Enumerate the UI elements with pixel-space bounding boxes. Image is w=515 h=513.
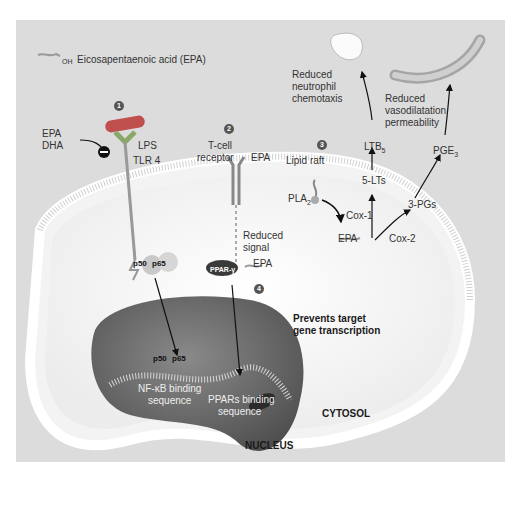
ppar-epa: EPA: [253, 258, 272, 269]
prevents-1: Prevents target: [293, 313, 366, 324]
pge3-label: PGE3: [433, 145, 458, 160]
nucleus-label: NUCLEUS: [245, 440, 293, 451]
tlr4-label: TLR 4: [133, 155, 160, 166]
3pgs-label: 3-PGs: [408, 199, 436, 210]
5lts-label: 5-LTs: [362, 175, 386, 186]
cox1-label: Cox-1: [346, 210, 373, 221]
pla2-label: PLA2: [288, 193, 311, 208]
legend-epa-molecule: [38, 54, 60, 56]
tcell-epa: EPA: [251, 152, 270, 163]
reduced-signal-2: signal: [243, 242, 269, 253]
pathway-epa: EPA: [338, 233, 357, 244]
lps-label: LPS: [138, 140, 157, 151]
tcell-label-1: T-cell: [208, 140, 232, 151]
diagram-graphics: [0, 0, 515, 513]
legend-label: Eicosapentaenoic acid (EPA): [77, 54, 206, 65]
vaso-1: Reduced: [385, 93, 425, 104]
cytosol-label: CYTOSOL: [322, 408, 370, 419]
ppars-1: PPARs binding: [208, 394, 275, 405]
legend-oh: OH: [62, 56, 73, 67]
neutrophil-2: neutrophil: [292, 81, 336, 92]
inhibitor-epa: EPA: [42, 128, 61, 139]
prevents-2: gene transcription: [293, 325, 380, 336]
inhibitor-dha: DHA: [42, 140, 63, 151]
step-4-badge: 4: [254, 284, 264, 294]
p50-label: p50: [133, 258, 147, 269]
step-2-badge: 2: [224, 124, 234, 134]
neutrophil-1: Reduced: [292, 69, 332, 80]
ppar-label: PPAR-γ: [210, 264, 235, 275]
vaso-2: vasodilatation: [385, 105, 446, 116]
tcell-label-2: receptor: [197, 152, 234, 163]
p65-bound-label: p65: [172, 353, 186, 364]
nfkb-1: NF-κB binding: [138, 383, 201, 394]
p65-label: p65: [152, 258, 166, 269]
nfkb-2: sequence: [148, 395, 191, 406]
p50-bound-label: p50: [153, 353, 167, 364]
vaso-3: permeability: [385, 117, 439, 128]
ltb5-label: LTB5: [364, 141, 386, 156]
neutrophil-3: chemotaxis: [292, 93, 343, 104]
ppars-2: sequence: [218, 406, 261, 417]
step-1-badge: 1: [114, 101, 124, 111]
cox2-label: Cox-2: [389, 233, 416, 244]
lipid-raft-label: Lipid raft: [286, 155, 324, 166]
reduced-signal-1: Reduced: [243, 230, 283, 241]
step-3-badge: 3: [317, 140, 327, 150]
